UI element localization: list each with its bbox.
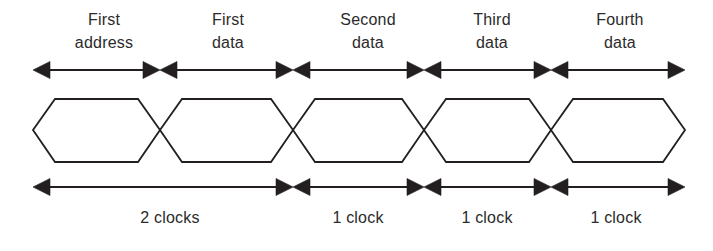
timing-diagram: FirstaddressFirstdataSeconddataThirddata… [0,0,713,251]
bottom-arrow-row [33,179,685,196]
top-arrow-row [33,62,685,79]
third-data-cell [424,99,551,162]
third-data-span-right-arrowhead [534,62,551,79]
clock-count-label-4: 1 clock [590,208,641,228]
fourth-data-cell [551,99,685,162]
clock-count-label-3: 1 clock [461,208,512,228]
phase-label-4: Thirddata [473,8,510,54]
one-clock-span-3-left-arrowhead [551,179,568,196]
first-address-span-left-arrowhead [33,62,50,79]
first-address-span [33,62,160,79]
first-data-cell [160,99,293,162]
fourth-data-span-left-arrowhead [551,62,568,79]
second-data-span-right-arrowhead [407,62,424,79]
one-clock-span-1 [293,179,424,196]
phase-label-2-line1: First [212,8,244,31]
one-clock-span-3-right-arrowhead [668,179,685,196]
one-clock-span-3 [551,179,685,196]
fourth-data-span [551,62,685,79]
phase-label-5: Fourthdata [596,8,643,54]
one-clock-span-2-right-arrowhead [534,179,551,196]
fourth-data-span-right-arrowhead [668,62,685,79]
phase-label-3-line1: Second [340,8,395,31]
two-clocks-span-left-arrowhead [33,179,50,196]
third-data-span-left-arrowhead [424,62,441,79]
phase-label-4-line1: Third [473,8,510,31]
clock-count-label-2: 1 clock [332,208,383,228]
first-data-span [160,62,293,79]
first-data-span-right-arrowhead [276,62,293,79]
phase-label-2: Firstdata [212,8,244,54]
second-data-cell [293,99,424,162]
phase-label-3-line2: data [340,31,395,54]
second-data-span [293,62,424,79]
phase-label-1-line2: address [75,31,133,54]
one-clock-span-2-left-arrowhead [424,179,441,196]
two-clocks-span-right-arrowhead [276,179,293,196]
phase-label-5-line1: Fourth [596,8,643,31]
clock-count-label-1: 2 clocks [140,208,199,228]
two-clocks-span [33,179,293,196]
first-address-cell [33,99,160,162]
phase-label-4-line2: data [473,31,510,54]
third-data-span [424,62,551,79]
phase-label-1-line1: First [75,8,133,31]
phase-label-3: Seconddata [340,8,395,54]
one-clock-span-1-left-arrowhead [293,179,310,196]
first-data-span-left-arrowhead [160,62,177,79]
phase-label-2-line2: data [212,31,244,54]
first-address-span-right-arrowhead [143,62,160,79]
phase-label-5-line2: data [596,31,643,54]
phase-label-1: Firstaddress [75,8,133,54]
second-data-span-left-arrowhead [293,62,310,79]
one-clock-span-1-right-arrowhead [407,179,424,196]
bus-waveform [33,99,685,162]
one-clock-span-2 [424,179,551,196]
